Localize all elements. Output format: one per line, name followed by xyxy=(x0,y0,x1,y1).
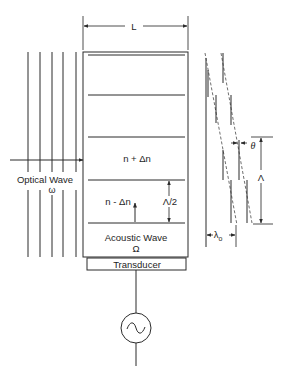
optical-wave-label: Optical Wave xyxy=(17,174,73,185)
optical-frequency-label: ω xyxy=(48,185,55,195)
acoustic-frequency-label: Ω xyxy=(132,243,139,254)
optical-wavelength-label: λo xyxy=(214,229,223,242)
lambda-subscript: o xyxy=(218,235,222,242)
length-label: L xyxy=(131,21,136,32)
rf-source xyxy=(121,270,151,366)
half-wavelength-dimension: Λ/2 xyxy=(161,181,178,222)
half-wavelength-label: Λ/2 xyxy=(163,196,177,207)
high-index-label: n + Δn xyxy=(123,153,151,164)
optical-wavefronts xyxy=(28,52,76,257)
angle-theta-label: θ xyxy=(251,140,256,151)
length-dimension: L xyxy=(83,16,188,50)
low-index-label: n - Δn xyxy=(105,196,130,207)
transducer-label: Transducer xyxy=(113,259,161,270)
transducer: Transducer xyxy=(87,258,186,270)
acousto-optic-diagram: L Optical Wave ω n + Δn n - Δn Λ/2 Acous… xyxy=(0,0,288,377)
wavefront-tilt-diagram: θ Λ λo xyxy=(205,53,273,247)
acoustic-wave-label: Acoustic Wave xyxy=(105,232,167,243)
acoustic-wavelength-label: Λ xyxy=(258,172,265,183)
